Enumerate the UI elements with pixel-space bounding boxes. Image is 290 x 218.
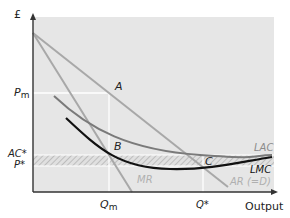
lac-label: LAC [254, 142, 273, 153]
y-axis-label: £ [14, 8, 21, 21]
point-a-label: A [114, 80, 123, 93]
monopoly-diagram: £ Output Pm AC* P* Qm Q* A B C LAC LMC M… [0, 0, 290, 218]
y-axis-arrow-icon [30, 13, 36, 20]
q-star-label: Q* [196, 199, 209, 210]
point-c-label: C [205, 155, 213, 168]
mr-label: MR [137, 174, 153, 185]
qm-label: Qm [100, 198, 117, 212]
p-star-label: P* [14, 159, 25, 170]
ar-label: AR (=D) [229, 176, 271, 187]
x-axis-arrow-icon [271, 189, 278, 195]
pm-label: Pm [14, 86, 29, 100]
lmc-label: LMC [250, 164, 271, 175]
x-axis-label: Output [245, 200, 284, 213]
ac-star-label: AC* [7, 148, 27, 159]
point-b-label: B [114, 140, 122, 153]
